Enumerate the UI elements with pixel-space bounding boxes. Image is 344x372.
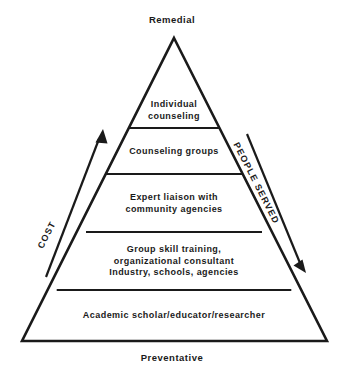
bottom-axis-label: Preventative	[0, 352, 344, 363]
tier-5-line-1: Academic scholar/educator/researcher	[83, 310, 265, 322]
tier-1-line-2: counseling	[148, 110, 200, 122]
tier-3-line-2: community agencies	[125, 203, 222, 215]
pyramid-outline-shape	[22, 38, 327, 341]
tier-label-individual-counseling: Individual counseling	[148, 99, 200, 122]
tier-label-counseling-groups: Counseling groups	[129, 146, 219, 158]
tier-4-line-1: Group skill training,	[109, 244, 239, 256]
tier-4-line-3: Industry, schools, agencies	[109, 267, 239, 279]
tier-4-line-2: organizational consultant	[109, 255, 239, 267]
tier-1-line-1: Individual	[148, 99, 200, 111]
tier-label-academic-scholar: Academic scholar/educator/researcher	[83, 310, 265, 322]
people-served-arrow-head	[294, 260, 307, 274]
tier-label-group-skill-training: Group skill training, organizational con…	[109, 244, 239, 279]
cost-arrow-head	[96, 129, 108, 144]
tier-label-expert-liaison: Expert liaison with community agencies	[125, 192, 222, 215]
tier-3-line-1: Expert liaison with	[125, 192, 222, 204]
tier-2-line-1: Counseling groups	[129, 146, 219, 158]
pyramid-diagram: Remedial Individual counseling Counselin…	[0, 0, 344, 372]
